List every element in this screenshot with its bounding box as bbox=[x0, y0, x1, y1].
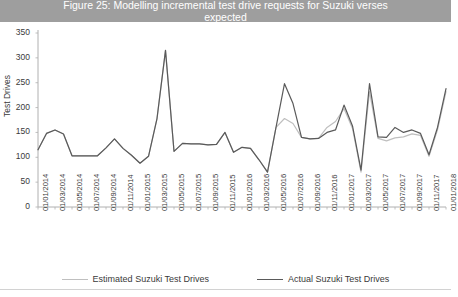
x-axis-tick-label: 01/01/2016 bbox=[245, 174, 254, 211]
x-axis-tick-label: 01/09/2017 bbox=[415, 174, 424, 211]
legend-line-swatch bbox=[257, 279, 283, 280]
legend-divider bbox=[0, 289, 451, 290]
x-axis-tick-label: 01/11/2015 bbox=[228, 175, 237, 211]
chart-title-line-2: expected bbox=[0, 12, 451, 23]
x-axis-tick-label: 01/09/2014 bbox=[109, 174, 118, 211]
y-axis-tick-label: 0 bbox=[4, 201, 30, 211]
legend-item[interactable]: Estimated Suzuki Test Drives bbox=[62, 274, 209, 284]
x-axis-tick-label: 01/01/2017 bbox=[347, 174, 356, 211]
x-axis-tick-label: 01/07/2014 bbox=[92, 174, 101, 211]
legend-item[interactable]: Actual Suzuki Test Drives bbox=[257, 274, 389, 284]
y-axis-tick-label: 50 bbox=[4, 176, 30, 186]
line-plot bbox=[0, 22, 451, 268]
x-axis-tick-label: 01/09/2015 bbox=[211, 174, 220, 211]
y-axis-tick-label: 350 bbox=[4, 27, 30, 37]
x-axis-tick-label: 01/07/2017 bbox=[398, 174, 407, 211]
chart-title-line-1: Figure 25: Modelling incremental test dr… bbox=[0, 0, 451, 12]
legend-line-swatch bbox=[62, 279, 88, 280]
x-axis-tick-label: 01/11/2014 bbox=[126, 175, 135, 211]
x-axis-tick-label: 01/07/2015 bbox=[194, 174, 203, 211]
chart-title-banner: Figure 25: Modelling incremental test dr… bbox=[0, 0, 451, 22]
legend-item-label: Estimated Suzuki Test Drives bbox=[93, 274, 209, 284]
x-axis-tick-label: 01/05/2016 bbox=[279, 174, 288, 211]
x-axis-tick-label: 01/03/2015 bbox=[160, 174, 169, 211]
chart-area: Test Drives 050100150200250300350 01/01/… bbox=[0, 22, 451, 268]
x-axis-tick-label: 01/11/2016 bbox=[330, 175, 339, 211]
x-axis-tick-label: 01/03/2017 bbox=[364, 174, 373, 211]
x-axis-tick-label: 01/05/2017 bbox=[381, 174, 390, 211]
x-axis-tick-label: 01/05/2014 bbox=[75, 174, 84, 211]
y-axis-tick-label: 200 bbox=[4, 102, 30, 112]
y-axis-tick-label: 300 bbox=[4, 52, 30, 62]
y-axis-tick-label: 150 bbox=[4, 126, 30, 136]
series-line-actual bbox=[38, 50, 446, 172]
x-axis-tick-label: 01/03/2014 bbox=[58, 174, 67, 211]
x-axis-tick-label: 01/01/2014 bbox=[41, 174, 50, 211]
legend-item-label: Actual Suzuki Test Drives bbox=[288, 274, 389, 284]
x-axis-tick-label: 01/05/2015 bbox=[177, 174, 186, 211]
x-axis-tick-label: 01/11/2017 bbox=[432, 175, 441, 211]
x-axis-tick-label: 01/07/2016 bbox=[296, 174, 305, 211]
x-axis-tick-label: 01/01/2015 bbox=[143, 174, 152, 211]
y-axis-tick-label: 250 bbox=[4, 77, 30, 87]
x-axis-tick-label: 01/03/2016 bbox=[262, 174, 271, 211]
page-bottom-edge bbox=[0, 293, 451, 297]
y-axis-tick-label: 100 bbox=[4, 151, 30, 161]
x-axis-tick-label: 01/01/2018 bbox=[449, 174, 458, 211]
x-axis-tick-label: 01/09/2016 bbox=[313, 174, 322, 211]
